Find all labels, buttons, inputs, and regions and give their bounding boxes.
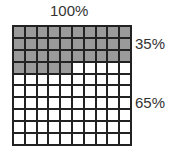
grid-cell: [60, 121, 72, 133]
grid-cell: [37, 26, 49, 38]
grid-cell: [96, 85, 108, 97]
grid-cell: [84, 109, 96, 121]
grid-cell: [25, 133, 37, 145]
grid-cell: [48, 26, 60, 38]
grid-cell: [84, 74, 96, 86]
grid-cell: [119, 26, 131, 38]
grid-cell: [13, 62, 25, 74]
waffle-grid: [12, 25, 132, 146]
grid-cell: [13, 74, 25, 86]
grid-cell: [37, 50, 49, 62]
grid-cell: [119, 50, 131, 62]
grid-cell: [84, 97, 96, 109]
grid-cell: [119, 97, 131, 109]
grid-cell: [107, 133, 119, 145]
grid-cell: [84, 38, 96, 50]
grid-cell: [84, 26, 96, 38]
grid-cell: [72, 74, 84, 86]
grid-cell: [107, 62, 119, 74]
grid-cell: [96, 50, 108, 62]
grid-cell: [72, 50, 84, 62]
grid-cell: [60, 62, 72, 74]
grid-cell: [48, 121, 60, 133]
grid-cell: [119, 62, 131, 74]
grid-cell: [107, 26, 119, 38]
grid-cell: [84, 121, 96, 133]
grid-cell: [84, 62, 96, 74]
grid-cell: [72, 97, 84, 109]
grid-cell: [84, 50, 96, 62]
grid-cell: [96, 74, 108, 86]
grid-cell: [107, 121, 119, 133]
grid-cell: [107, 97, 119, 109]
grid-cell: [48, 85, 60, 97]
grid-cell: [96, 62, 108, 74]
grid-cell: [107, 74, 119, 86]
grid-cell: [13, 121, 25, 133]
grid-cell: [119, 85, 131, 97]
grid-cell: [107, 38, 119, 50]
grid-cell: [96, 97, 108, 109]
grid-cell: [37, 74, 49, 86]
grid-cell: [37, 133, 49, 145]
grid-cell: [107, 50, 119, 62]
grid-cell: [48, 97, 60, 109]
grid-cell: [25, 121, 37, 133]
grid-cell: [60, 50, 72, 62]
unshaded-label: 65%: [135, 94, 165, 111]
grid-cell: [96, 121, 108, 133]
grid-cell: [48, 109, 60, 121]
grid-cell: [72, 38, 84, 50]
grid-cell: [37, 97, 49, 109]
grid-cell: [13, 38, 25, 50]
grid-cell: [60, 74, 72, 86]
grid-cell: [119, 109, 131, 121]
grid-cell: [84, 133, 96, 145]
grid-cell: [37, 85, 49, 97]
grid-cell: [13, 85, 25, 97]
grid-cell: [84, 85, 96, 97]
grid-cell: [25, 62, 37, 74]
grid-cell: [37, 109, 49, 121]
grid-cell: [60, 26, 72, 38]
grid-cell: [25, 97, 37, 109]
grid-cell: [13, 50, 25, 62]
grid-cell: [119, 133, 131, 145]
shaded-label: 35%: [135, 35, 165, 52]
grid-cell: [119, 121, 131, 133]
grid-cell: [13, 109, 25, 121]
grid-cell: [96, 133, 108, 145]
grid-cell: [25, 50, 37, 62]
grid-cell: [48, 38, 60, 50]
grid-cell: [13, 26, 25, 38]
grid-cell: [72, 26, 84, 38]
grid-cell: [72, 121, 84, 133]
grid-cell: [37, 38, 49, 50]
grid-cell: [72, 133, 84, 145]
grid-cell: [13, 97, 25, 109]
grid-cell: [13, 133, 25, 145]
grid-cell: [72, 109, 84, 121]
grid-cell: [60, 133, 72, 145]
grid-cell: [60, 38, 72, 50]
grid-cell: [25, 109, 37, 121]
grid-cell: [107, 109, 119, 121]
grid-cell: [107, 85, 119, 97]
grid-cell: [25, 26, 37, 38]
grid-cell: [48, 50, 60, 62]
grid-cell: [72, 85, 84, 97]
grid-cell: [48, 74, 60, 86]
grid-cell: [60, 85, 72, 97]
grid-cell: [119, 74, 131, 86]
grid-cell: [60, 97, 72, 109]
total-label: 100%: [50, 2, 88, 19]
grid-cell: [119, 38, 131, 50]
grid-cell: [48, 62, 60, 74]
grid-cell: [96, 38, 108, 50]
grid-cell: [48, 133, 60, 145]
grid-cell: [37, 121, 49, 133]
grid-cell: [25, 74, 37, 86]
grid-cell: [25, 85, 37, 97]
grid-cell: [96, 26, 108, 38]
grid-cell: [37, 62, 49, 74]
